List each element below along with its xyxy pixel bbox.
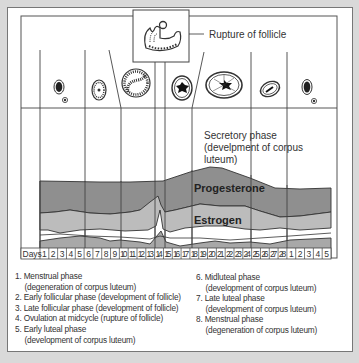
legend-right: 6. Midluteal phase (development of corpu… (196, 272, 317, 336)
day-cell: 14 (155, 249, 163, 259)
day-cell: 25 (252, 249, 260, 259)
day-cell: 4 (68, 249, 73, 259)
day-cell: 17 (182, 249, 190, 259)
day-cell: 16 (173, 249, 181, 259)
day-cell: 24 (244, 249, 252, 259)
day-cell: 3 (307, 249, 312, 259)
day-cell: 28 (279, 249, 287, 259)
day-cell: 2 (298, 249, 303, 259)
rupture-callout-label: Rupture of follicle (209, 29, 287, 40)
day-cell: 13 (147, 249, 155, 259)
corpus-luteum-early-icon (172, 76, 192, 100)
day-cell: 4 (315, 249, 320, 259)
day-cell: 6 (86, 249, 91, 259)
day-cell: 15 (164, 249, 172, 259)
estrogen-label: Estrogen (194, 214, 242, 226)
day-cell: 27 (270, 249, 278, 259)
legend-left: 1. Menstrual phase (degeneration of corp… (15, 271, 181, 345)
svg-text:luteum): luteum) (204, 154, 237, 165)
day-cell: 12 (138, 249, 146, 259)
days-axis: Days 12345678910111213141516171819202122… (21, 248, 331, 259)
progesterone-label: Progesterone (194, 182, 265, 194)
day-cell: 22 (226, 249, 234, 259)
days-label: Days (23, 249, 42, 259)
day-cell: 9 (113, 249, 118, 259)
day-cell: 26 (261, 249, 269, 259)
day-cell: 2 (51, 249, 56, 259)
follicle-stage-3-icon (122, 69, 150, 97)
day-cell: 3 (60, 249, 65, 259)
day-cell: 7 (95, 249, 100, 259)
day-cell: 5 (324, 249, 329, 259)
day-cell: 21 (217, 249, 225, 259)
legend-item-6: 6. Midluteal phase (196, 272, 317, 283)
legend-item-8-sub: (degeneration of corpus luteum) (196, 325, 317, 336)
svg-text:(develpment of corpus: (develpment of corpus (204, 142, 303, 153)
day-cell: 8 (104, 249, 109, 259)
day-cell: 18 (191, 249, 199, 259)
day-cell: 1 (289, 249, 294, 259)
follicle-stage-2-icon (92, 80, 106, 100)
day-cell: 5 (77, 249, 82, 259)
day-cell: 1 (42, 249, 47, 259)
svg-text:Secretory phase: Secretory phase (204, 130, 277, 141)
legend-item-5: 5. Early luteal phase (15, 324, 181, 335)
day-cell: 23 (235, 249, 243, 259)
corpus-luteum-mid-icon (206, 72, 242, 98)
menstrual-cycle-diagram: Rupture of follicle (0, 0, 359, 263)
day-cell: 11 (129, 249, 137, 259)
day-cell: 10 (120, 249, 128, 259)
day-cell: 20 (208, 249, 216, 259)
day-cell: 19 (199, 249, 207, 259)
legend-item-5-sub: (development of corpus luteum) (15, 335, 181, 346)
legend-item-1: 1. Menstrual phase (15, 271, 181, 282)
